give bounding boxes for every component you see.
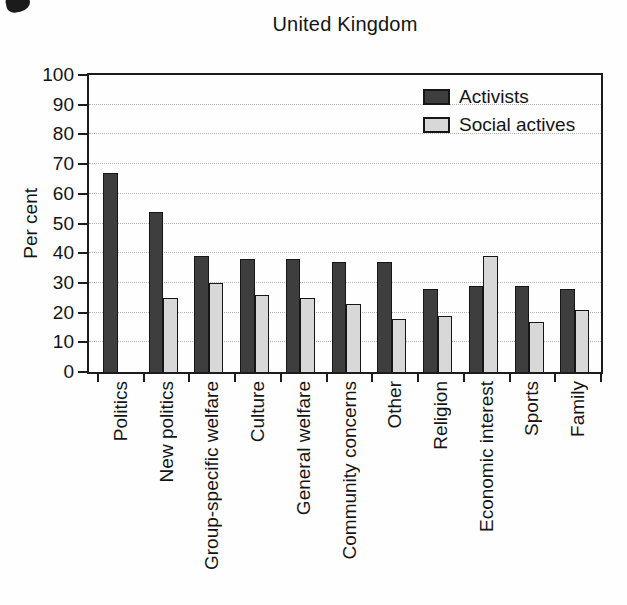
y-tick-80 [78,133,87,135]
y-tick-0 [78,371,87,373]
bar-activists-sports [515,286,530,372]
figure: United Kingdom Per cent Activists Social… [0,0,627,605]
y-tick-60 [78,193,87,195]
y-tick-label-80: 80 [14,124,74,144]
bar-social-actives-new-politics [163,298,178,372]
bar-activists-family [560,289,575,372]
x-label-text: Sports [521,381,543,436]
x-label-text: Culture [247,381,269,442]
bar-activists-general-welfare [286,259,301,372]
legend-label-activists: Activists [459,87,529,106]
legend-item-activists: Activists [423,87,575,106]
x-tick-0 [97,374,99,382]
x-label-sports: Sports [521,381,543,436]
x-tick-5 [326,374,328,382]
y-tick-40 [78,252,87,254]
x-label-culture: Culture [247,381,269,442]
bar-social-actives-community-concerns [346,304,361,372]
x-label-text: Family [567,381,589,437]
x-label-text: General welfare [293,381,315,515]
x-tick-7 [417,374,419,382]
x-tick-9 [509,374,511,382]
x-tick-4 [280,374,282,382]
y-tick-10 [78,341,87,343]
y-tick-90 [78,104,87,106]
bar-activists-other [377,262,392,372]
gridline-60 [89,193,601,194]
x-label-text: Community concerns [339,381,361,559]
y-tick-70 [78,163,87,165]
bar-social-actives-economic-interest [483,256,498,372]
bar-social-actives-culture [255,295,270,372]
x-tick-2 [188,374,190,382]
bar-activists-group-specific-welfare [194,256,209,372]
y-tick-label-10: 10 [14,332,74,352]
bar-social-actives-general-welfare [300,298,315,372]
legend-item-social-actives: Social actives [423,115,575,134]
bar-activists-new-politics [149,212,164,372]
x-tick-6 [371,374,373,382]
x-tick-10 [554,374,556,382]
bar-social-actives-group-specific-welfare [209,283,224,372]
y-tick-label-30: 30 [14,273,74,293]
bar-activists-politics [103,173,118,372]
gridline-70 [89,163,601,164]
y-tick-20 [78,312,87,314]
bar-activists-community-concerns [332,262,347,372]
y-tick-label-0: 0 [14,362,74,382]
bar-activists-religion [423,289,438,372]
bar-social-actives-family [575,310,590,372]
x-tick-3 [234,374,236,382]
y-tick-label-90: 90 [14,95,74,115]
x-label-text: Other [384,381,406,429]
y-tick-label-50: 50 [14,214,74,234]
x-label-group-specific-welfare: Group-specific welfare [201,381,223,570]
x-label-text: Group-specific welfare [201,381,223,570]
legend-label-social-actives: Social actives [459,115,575,134]
x-label-new-politics: New politics [156,381,178,482]
bar-activists-culture [240,259,255,372]
x-label-economic-interest: Economic interest [476,381,498,532]
x-label-text: New politics [156,381,178,482]
gridline-40 [89,252,601,253]
x-label-family: Family [567,381,589,437]
y-tick-label-70: 70 [14,154,74,174]
chart-title: United Kingdom [87,13,603,36]
y-tick-label-60: 60 [14,184,74,204]
bar-activists-economic-interest [469,286,484,372]
y-tick-label-20: 20 [14,303,74,323]
plot-area: Activists Social actives [87,73,603,374]
x-label-text: Religion [430,381,452,450]
scan-artifact [4,0,31,14]
bar-social-actives-other [392,319,407,372]
x-label-text: Economic interest [476,381,498,532]
y-tick-label-40: 40 [14,243,74,263]
gridline-50 [89,223,601,224]
x-tick-11 [600,374,602,382]
legend: Activists Social actives [423,87,575,143]
x-label-community-concerns: Community concerns [339,381,361,559]
x-label-general-welfare: General welfare [293,381,315,515]
y-tick-100 [78,74,87,76]
y-tick-50 [78,223,87,225]
x-label-text: Politics [110,381,132,441]
legend-swatch-activists [423,89,450,105]
x-tick-1 [143,374,145,382]
x-label-politics: Politics [110,381,132,441]
y-tick-label-100: 100 [14,65,74,85]
x-tick-8 [463,374,465,382]
x-label-other: Other [384,381,406,429]
y-tick-30 [78,282,87,284]
x-label-religion: Religion [430,381,452,450]
bar-social-actives-religion [438,316,453,372]
legend-swatch-social-actives [423,117,450,133]
bar-social-actives-sports [529,322,544,372]
